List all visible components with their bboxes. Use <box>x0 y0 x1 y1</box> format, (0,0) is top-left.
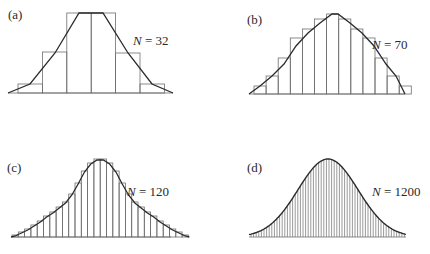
gaussian-curve <box>249 14 405 94</box>
histogram-figure <box>0 0 430 254</box>
histogram-bar <box>107 163 113 237</box>
n-value: = 70 <box>381 37 408 52</box>
histogram-bar <box>351 29 363 94</box>
histogram-bar <box>119 183 125 237</box>
panel-c-label: (c) <box>7 160 21 176</box>
histogram-bar <box>75 183 81 237</box>
histogram-bar <box>140 84 164 93</box>
histogram-bar <box>125 194 131 237</box>
n-symbol: N <box>372 37 381 52</box>
histogram-bar <box>91 13 115 93</box>
histogram-bar <box>116 53 140 93</box>
histogram-bar <box>100 159 106 237</box>
histogram-bar <box>81 171 87 237</box>
histogram-bar <box>67 13 91 93</box>
histogram-bar <box>302 29 314 94</box>
panel-b-label: (b) <box>247 12 262 28</box>
histogram-bar <box>254 86 266 94</box>
histogram-bar <box>132 202 138 237</box>
n-symbol: N <box>133 33 142 48</box>
histogram-bar <box>18 84 42 93</box>
histogram-bar <box>327 14 339 94</box>
n-symbol: N <box>127 184 136 199</box>
histogram-bar <box>315 19 327 94</box>
histogram-bar <box>56 207 62 237</box>
panel-a-label: (a) <box>8 7 22 23</box>
gaussian-curve <box>8 13 173 93</box>
histogram-bar <box>94 159 100 237</box>
n-value: = 32 <box>142 33 169 48</box>
panel-d-label: (d) <box>247 160 262 176</box>
histogram-bar <box>144 212 150 237</box>
histogram-bar <box>88 163 94 237</box>
histogram-bar <box>113 171 119 237</box>
panel-d-n-label: N = 1200 <box>372 184 421 200</box>
panel-c-n-label: N = 120 <box>127 184 169 200</box>
histogram-bar <box>138 207 144 237</box>
n-value: = 1200 <box>381 184 421 199</box>
n-symbol: N <box>372 184 381 199</box>
histogram-bar <box>50 212 56 237</box>
histogram-bar <box>69 194 75 237</box>
n-value: = 120 <box>136 184 169 199</box>
histogram-bar <box>339 19 351 94</box>
histogram-bar <box>62 202 68 237</box>
panel-a-n-label: N = 32 <box>133 33 169 49</box>
panel-b-n-label: N = 70 <box>372 37 408 53</box>
histogram-bar <box>42 52 66 93</box>
